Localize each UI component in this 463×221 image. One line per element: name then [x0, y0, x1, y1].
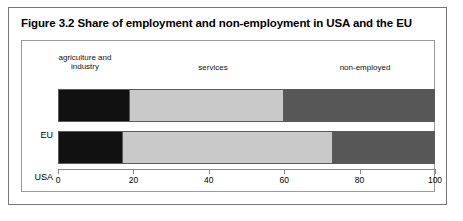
- bar-segment-eu-non-employed: [284, 90, 434, 121]
- chart-inner-canvas: agriculture and industry services non-em…: [58, 41, 435, 191]
- bar-segment-usa-non-employed: [333, 132, 434, 163]
- x-tick-label-40: 40: [204, 175, 213, 185]
- bar-segment-usa-services: [123, 132, 333, 163]
- category-label-eu: EU: [21, 130, 53, 140]
- series-label-agriculture-and-industry: agriculture and industry: [38, 53, 132, 71]
- x-tick-60: [284, 169, 285, 174]
- x-tick-label-100: 100: [428, 175, 442, 185]
- category-label-usa: USA: [21, 172, 53, 182]
- bar-usa: [58, 131, 435, 164]
- chart-plot-area: agriculture and industry services non-em…: [21, 40, 435, 192]
- x-tick-100: [435, 169, 436, 174]
- bar-segment-eu-services: [130, 90, 284, 121]
- bar-segment-usa-agriculture-and-industry: [59, 132, 123, 163]
- x-axis-line: [58, 169, 435, 170]
- x-tick-label-60: 60: [279, 175, 288, 185]
- series-label-non-employed: non-employed: [313, 63, 417, 72]
- x-tick-label-80: 80: [355, 175, 364, 185]
- x-tick-label-20: 20: [129, 175, 138, 185]
- x-tick-80: [360, 169, 361, 174]
- x-tick-40: [209, 169, 210, 174]
- x-tick-0: [58, 169, 59, 174]
- figure-frame: Figure 3.2 Share of employment and non-e…: [8, 7, 447, 205]
- series-label-services: services: [166, 63, 260, 72]
- x-tick-20: [133, 169, 134, 174]
- bar-eu: [58, 89, 435, 122]
- figure-title: Figure 3.2 Share of employment and non-e…: [21, 17, 412, 29]
- x-tick-label-0: 0: [56, 175, 61, 185]
- bar-segment-eu-agriculture-and-industry: [59, 90, 130, 121]
